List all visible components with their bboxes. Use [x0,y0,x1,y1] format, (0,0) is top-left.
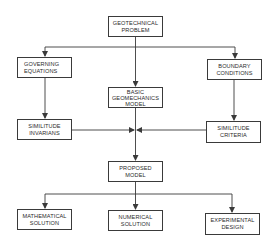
node-geotechnical-problem: GEOTECHNICAL PROBLEM [108,16,163,37]
node-similitude-invarians: SIMILITUDE INVARIANS [17,119,72,140]
node-label: MODEL [125,101,145,107]
node-label: MATHEMATICAL [22,213,66,220]
node-mathematical-solution: MATHEMATICAL SOLUTION [17,209,72,230]
node-label: GEOTECHNICAL [113,20,158,27]
node-label: NUMERICAL [119,214,153,221]
node-boundary-conditions: BOUNDARY CONDITIONS [207,59,262,80]
node-numerical-solution: NUMERICAL SOLUTION [108,210,163,231]
node-label: PROBLEM [121,27,149,34]
node-basic-geomechanics-model: BASIC GEOMECHANICS MODEL [108,87,163,108]
node-label: SOLUTION [30,220,59,227]
node-label: PROPOSED [119,165,152,172]
node-label: DESIGN [221,224,243,231]
node-governing-equations: GOVERNING EQUATIONS [17,57,72,78]
node-label: CONDITIONS [216,70,252,77]
node-label: MODEL [125,172,145,179]
node-label: INVARIANS [29,130,60,137]
node-label: EXPERIMENTAL [211,217,255,224]
node-proposed-model: PROPOSED MODEL [108,161,163,182]
node-similitude-criteria: SIMILITUDE CRITERIA [206,121,261,143]
node-experimental-design: EXPERIMENTAL DESIGN [205,213,260,235]
node-label: SIMILITUDE [217,125,249,132]
node-label: SOLUTION [121,221,150,228]
node-label: BOUNDARY [218,63,250,70]
node-label: CRITERIA [220,132,247,139]
node-label: EQUATIONS [24,68,57,75]
node-label: SIMILITUDE [28,123,60,130]
node-label: GOVERNING [24,61,59,68]
